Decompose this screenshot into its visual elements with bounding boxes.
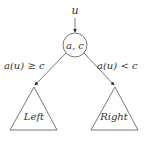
left-subtree-label: Left: [23, 111, 45, 122]
decision-node: a, c: [63, 33, 87, 57]
right-subtree-triangle: [91, 87, 138, 130]
left-edge-condition: a(u) ≥ c: [4, 60, 45, 71]
decision-tree-diagram: u a, c a(u) ≥ c a(u) < c Left Right: [0, 0, 149, 145]
decision-node-label: a, c: [66, 40, 84, 51]
right-edge-condition: a(u) < c: [97, 60, 138, 71]
left-subtree: Left: [10, 87, 57, 130]
left-subtree-triangle: [10, 87, 57, 130]
right-subtree-label: Right: [99, 111, 129, 122]
input-label: u: [71, 4, 78, 17]
right-subtree: Right: [91, 87, 138, 130]
